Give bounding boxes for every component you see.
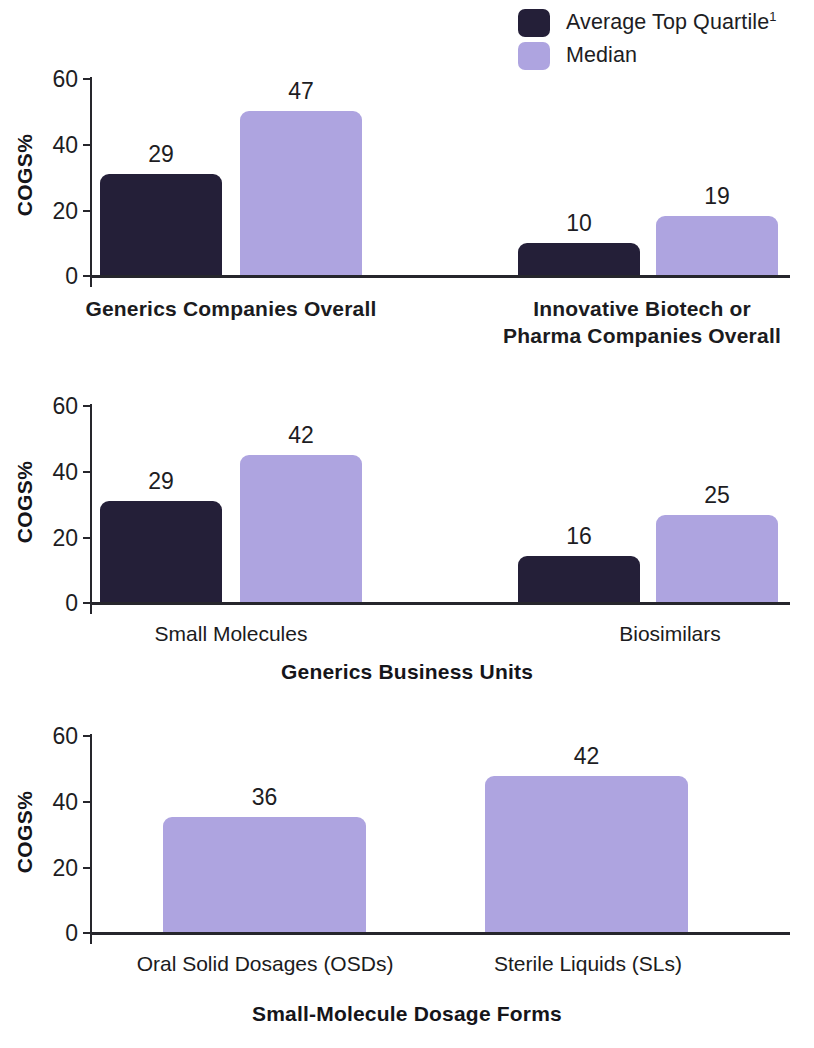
- y-tick-label-20-3: 20: [8, 855, 78, 882]
- bar-value-generics-average-top-quartile: 29: [100, 141, 222, 168]
- bar-biosimilars-average-top-quartile: [518, 556, 640, 602]
- bar-value-small-molecules-median: 42: [240, 422, 362, 449]
- legend-footnote-marker: 1: [769, 9, 776, 24]
- y-tick-label-60-1: 60: [8, 66, 78, 93]
- bar-generics-median: [240, 111, 362, 275]
- chart-small-molecule-dosage-forms: COGS% 60 40 20 0 36 42 Oral Solid Dosage…: [0, 712, 814, 1048]
- legend-swatch-dark: [518, 9, 550, 37]
- y-tick-label-20-1: 20: [8, 198, 78, 225]
- legend-item-average-top-quartile: Average Top Quartile1: [518, 6, 814, 39]
- y-axis-line-3: [90, 734, 92, 944]
- bar-value-biosimilars-median: 25: [656, 482, 778, 509]
- bar-value-innovative-average-top-quartile: 10: [518, 210, 640, 237]
- bar-oral-solid-dosages-median: [163, 817, 366, 932]
- y-axis-line-1: [90, 77, 92, 287]
- x-axis-baseline-3: [90, 932, 790, 935]
- bar-innovative-median: [656, 216, 778, 275]
- x-axis-baseline-2: [90, 602, 790, 605]
- y-tick-label-40-3: 40: [8, 789, 78, 816]
- y-tick-label-0-1: 0: [8, 263, 78, 290]
- chart-generics-business-units: COGS% 60 40 20 0 29 42 16 25 Small Molec…: [0, 382, 814, 682]
- y-tick-label-0-3: 0: [8, 920, 78, 947]
- y-tick-label-40-1: 40: [8, 132, 78, 159]
- bar-value-small-molecules-average-top-quartile: 29: [100, 468, 222, 495]
- category-label-generics-companies-overall: Generics Companies Overall: [72, 295, 390, 322]
- y-tick-label-20-2: 20: [8, 525, 78, 552]
- bar-value-biosimilars-average-top-quartile: 16: [518, 523, 640, 550]
- bar-small-molecules-median: [240, 455, 362, 602]
- bar-value-sterile-liquids-median: 42: [485, 743, 688, 770]
- category-label-biosimilars: Biosimilars: [520, 620, 814, 647]
- chart-generics-vs-innovative: COGS% 60 40 20 0 29 47 10 19 Generics Co…: [0, 55, 814, 355]
- bar-value-generics-median: 47: [240, 78, 362, 105]
- category-label-innovative-biotech-pharma: Innovative Biotech or Pharma Companies O…: [470, 295, 814, 349]
- category-label-sterile-liquids: Sterile Liquids (SLs): [440, 950, 736, 977]
- legend-label-average-top-quartile: Average Top Quartile1: [566, 10, 776, 35]
- bar-small-molecules-average-top-quartile: [100, 501, 222, 602]
- chart-subtitle-generics-business-units: Generics Business Units: [0, 660, 814, 684]
- x-axis-baseline-1: [90, 275, 790, 278]
- category-label-small-molecules: Small Molecules: [72, 620, 390, 647]
- y-tick-label-40-2: 40: [8, 459, 78, 486]
- bar-generics-average-top-quartile: [100, 174, 222, 275]
- y-axis-line-2: [90, 404, 92, 614]
- bar-value-oral-solid-dosages-median: 36: [163, 784, 366, 811]
- bar-innovative-average-top-quartile: [518, 243, 640, 275]
- category-label-oral-solid-dosages: Oral Solid Dosages (OSDs): [100, 950, 430, 977]
- bar-sterile-liquids-median: [485, 776, 688, 932]
- y-tick-label-60-3: 60: [8, 723, 78, 750]
- y-tick-label-0-2: 0: [8, 590, 78, 617]
- bar-biosimilars-median: [656, 515, 778, 602]
- bar-value-innovative-median: 19: [656, 183, 778, 210]
- y-tick-label-60-2: 60: [8, 393, 78, 420]
- chart-subtitle-small-molecule-dosage-forms: Small-Molecule Dosage Forms: [0, 1002, 814, 1026]
